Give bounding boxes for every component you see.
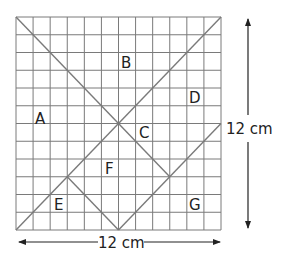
cut-line bbox=[16, 17, 170, 177]
piece-label-g: G bbox=[189, 196, 201, 214]
piece-label-b: B bbox=[121, 54, 131, 72]
piece-label-f: F bbox=[105, 160, 114, 178]
height-label: 12 cm bbox=[226, 120, 273, 138]
width-label: 12 cm bbox=[98, 234, 145, 252]
height-dimension: 12 cm bbox=[224, 19, 280, 228]
piece-label-c: C bbox=[139, 124, 149, 142]
piece-label-a: A bbox=[35, 110, 46, 128]
piece-label-e: E bbox=[54, 196, 63, 214]
piece-label-d: D bbox=[189, 89, 201, 107]
tangram-diagram: B D A C F E G 12 cm 12 cm bbox=[0, 0, 285, 255]
width-dimension: 12 cm bbox=[19, 234, 220, 252]
cut-line bbox=[67, 177, 118, 230]
